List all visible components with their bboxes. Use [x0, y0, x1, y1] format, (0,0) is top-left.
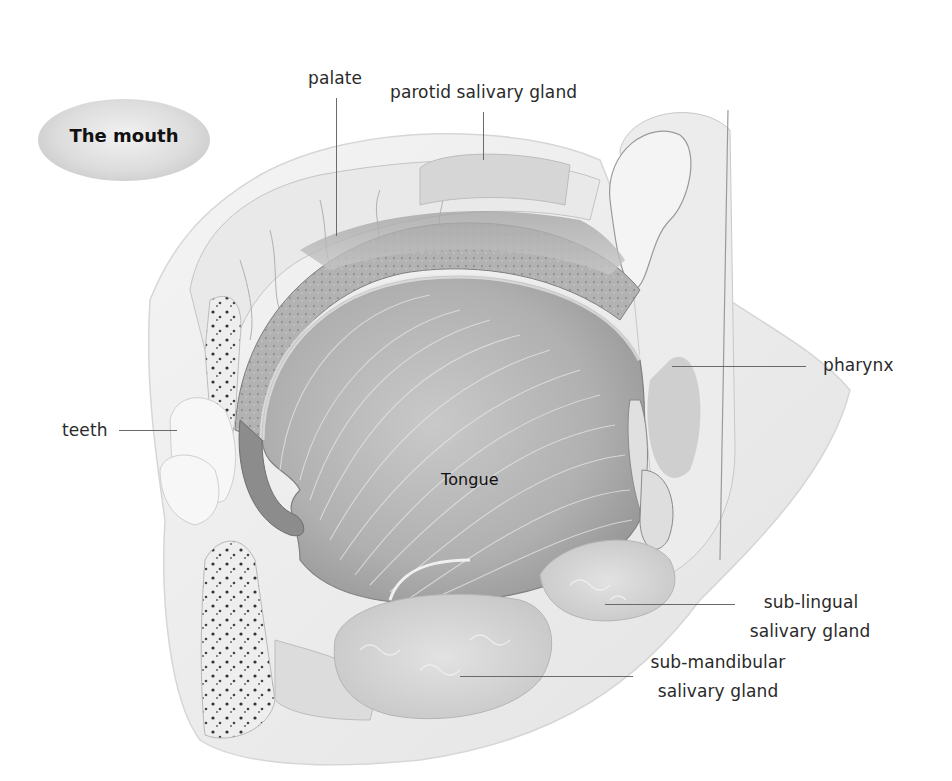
submandibular-label-line1: sub-mandibular — [648, 650, 788, 675]
sublingual-label-line2: salivary gland — [744, 619, 876, 644]
teeth-leader-line — [119, 430, 177, 431]
palate-leader-line — [336, 98, 337, 236]
submandibular-salivary-gland-label: sub-mandibular salivary gland — [648, 650, 788, 704]
palate-label: palate — [308, 66, 362, 91]
tongue-label: Tongue — [441, 467, 499, 492]
sublingual-salivary-gland-label: sub-lingual salivary gland — [746, 590, 876, 644]
diagram-title: The mouth — [70, 125, 179, 146]
sublingual-label-line1: sub-lingual — [746, 590, 876, 615]
submandibular-label-line2: salivary gland — [648, 679, 788, 704]
parotid-salivary-gland-label: parotid salivary gland — [390, 80, 577, 105]
submandibular-leader-line — [460, 676, 633, 677]
parotid-leader-line — [483, 112, 484, 160]
teeth-label: teeth — [62, 418, 108, 443]
pharynx-leader-line — [672, 366, 806, 367]
pharynx-label: pharynx — [823, 353, 894, 378]
mouth-anatomy-diagram: The mouth palate parotid salivary gland … — [0, 0, 952, 781]
sublingual-leader-line — [605, 604, 735, 605]
title-badge: The mouth — [38, 99, 210, 181]
